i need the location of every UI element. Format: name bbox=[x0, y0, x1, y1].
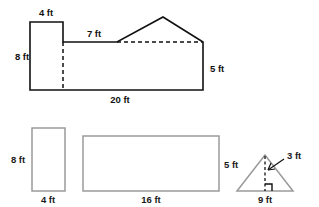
label-composite-base-width: 20 ft bbox=[110, 94, 130, 105]
label-composite-right-height: 5 ft bbox=[210, 63, 225, 74]
label-tall-rectangle-height: 8 ft bbox=[11, 154, 26, 165]
label-triangle-height: 3 ft bbox=[287, 150, 302, 161]
tall-rectangle-group bbox=[32, 128, 65, 191]
label-wide-rectangle-height: 5 ft bbox=[224, 159, 239, 170]
wide-rectangle-group bbox=[83, 136, 219, 191]
label-top-small-rect-width: 4 ft bbox=[39, 7, 54, 18]
composite-figure-group bbox=[30, 17, 203, 90]
label-tall-rectangle-width: 4 ft bbox=[41, 194, 56, 205]
composite-outline-path bbox=[30, 17, 203, 90]
figure-canvas: 4 ft 8 ft 7 ft 5 ft 20 ft 8 ft 4 ft 5 ft… bbox=[0, 0, 319, 207]
tall-rectangle-shape bbox=[32, 128, 65, 191]
label-wide-rectangle-width: 16 ft bbox=[141, 194, 161, 205]
geometry-figure-root: 4 ft 8 ft 7 ft 5 ft 20 ft 8 ft 4 ft 5 ft… bbox=[0, 0, 319, 207]
triangle-group bbox=[237, 155, 293, 191]
label-composite-upper-horizontal: 7 ft bbox=[87, 28, 102, 39]
right-angle-marker bbox=[265, 184, 272, 191]
wide-rectangle-shape bbox=[83, 136, 219, 191]
label-triangle-base: 9 ft bbox=[258, 194, 273, 205]
label-composite-left-height: 8 ft bbox=[15, 51, 30, 62]
